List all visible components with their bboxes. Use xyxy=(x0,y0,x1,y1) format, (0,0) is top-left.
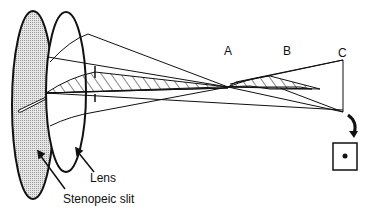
label-b: B xyxy=(283,44,291,58)
label-stenopeic-slit: Stenopeic slit xyxy=(63,192,135,206)
hatched-slit-beam xyxy=(46,66,320,102)
label-lens: Lens xyxy=(90,171,116,185)
image-view-arrow xyxy=(348,115,358,138)
label-c: C xyxy=(338,46,347,60)
stenopeic-slit-diagram: A B C Lens Stenopeic slit xyxy=(0,0,366,215)
point-image-dot xyxy=(343,154,348,159)
label-a: A xyxy=(224,44,232,58)
slit-image-box xyxy=(333,143,357,170)
